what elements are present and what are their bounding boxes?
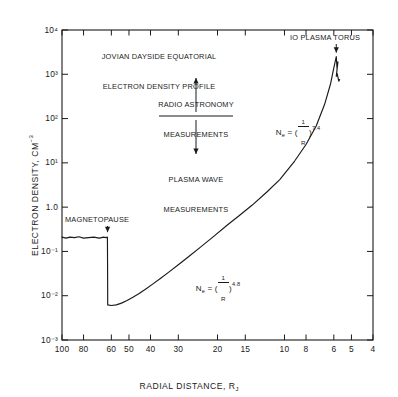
io-plasma-torus-label: IO PLASMA TORUS: [290, 33, 360, 42]
x-tick-label: 60: [102, 344, 120, 354]
x-tick-label: 4: [364, 344, 382, 354]
fit-inner-den: R: [298, 140, 310, 147]
y-tick-label: 10⁻¹: [26, 246, 58, 256]
fit-outer-exp: 4.8: [232, 281, 240, 287]
x-tick-label: 80: [75, 344, 93, 354]
x-tick-label: 100: [53, 344, 71, 354]
magnetopause-arrow-head: [105, 227, 110, 233]
x-tick-label: 8: [297, 344, 315, 354]
chart-title-line1: JOVIAN DAYSIDE EQUATORIAL: [84, 52, 234, 62]
fit-label-inner: Ne = ( 1 R )7.4: [266, 97, 320, 168]
radio-astronomy-line2: MEASUREMENTS: [141, 130, 251, 140]
y-tick-label: 10⁻³: [26, 335, 58, 345]
x-tick-label: 30: [169, 344, 187, 354]
electron-density-figure: JOVIAN DAYSIDE EQUATORIAL ELECTRON DENSI…: [0, 0, 398, 397]
radio-astronomy-line1: RADIO ASTRONOMY: [141, 100, 251, 110]
x-tick-label: 10: [275, 344, 293, 354]
x-tick-label: 20: [209, 344, 227, 354]
fit-inner-exp: 7.4: [312, 125, 320, 131]
plasma-wave-line1: PLASMA WAVE: [141, 175, 251, 185]
x-tick-label: 6: [325, 344, 343, 354]
radio-astronomy-label: RADIO ASTRONOMY MEASUREMENTS: [141, 80, 251, 160]
fit-outer-eq: = (: [205, 284, 218, 293]
fit-outer-den: R: [218, 296, 230, 303]
io-torus-arrow-head: [334, 47, 339, 53]
y-tick-label: 10¹: [26, 157, 58, 167]
fit-inner-eq: = (: [285, 128, 298, 137]
x-tick-label: 40: [142, 344, 160, 354]
y-tick-label: 10⁴: [26, 25, 58, 35]
x-axis-title-subscript: J: [235, 386, 239, 392]
x-axis-title: RADIAL DISTANCE, RJ: [128, 371, 239, 397]
y-tick-label: 10³: [26, 69, 58, 79]
x-tick-label: 15: [236, 344, 254, 354]
y-tick-label: 1.0: [26, 202, 58, 212]
fit-label-outer: Ne = ( 1 R )4.8: [186, 253, 240, 324]
x-axis-title-text: RADIAL DISTANCE, R: [140, 381, 236, 391]
x-tick-label: 50: [120, 344, 138, 354]
y-tick-label: 10⁻²: [26, 290, 58, 300]
y-axis-title-exponent: −3: [28, 135, 34, 143]
y-tick-label: 10²: [26, 113, 58, 123]
fit-inner-num: 1: [298, 119, 310, 127]
plasma-wave-label: PLASMA WAVE MEASUREMENTS: [141, 155, 251, 235]
x-tick-label: 5: [342, 344, 360, 354]
plasma-wave-line2: MEASUREMENTS: [141, 205, 251, 215]
fit-outer-num: 1: [218, 275, 230, 283]
magnetopause-label: MAGNETOPAUSE: [65, 215, 129, 224]
